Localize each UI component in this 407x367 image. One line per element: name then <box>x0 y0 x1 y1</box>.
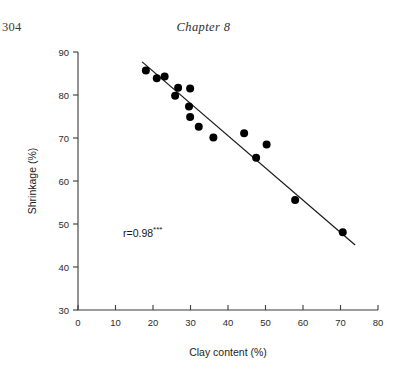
regression-line <box>142 62 355 245</box>
data-point-3 <box>174 84 182 92</box>
x-tick-label-80: 80 <box>373 317 384 328</box>
data-point-5 <box>186 85 194 93</box>
y-tick-label-80: 80 <box>58 90 69 101</box>
y-tick-label-50: 50 <box>58 219 69 230</box>
data-point-9 <box>209 134 217 142</box>
data-point-7 <box>186 113 194 121</box>
data-point-12 <box>263 140 271 148</box>
axes-group: 0102030405060708030405060708090 <box>58 47 383 329</box>
correlation-annotation: r=0.98*** <box>123 225 162 239</box>
data-point-4 <box>171 92 179 100</box>
plot-canvas: 0102030405060708030405060708090 r=0.98**… <box>0 0 407 367</box>
data-point-8 <box>195 123 203 131</box>
y-tick-label-30: 30 <box>58 305 69 316</box>
axis-lines <box>78 52 378 310</box>
x-tick-label-40: 40 <box>223 317 234 328</box>
data-point-6 <box>185 103 193 111</box>
scatter-plot-figure: 0102030405060708030405060708090 r=0.98**… <box>0 0 407 367</box>
y-tick-label-60: 60 <box>58 176 69 187</box>
x-tick-label-60: 60 <box>298 317 309 328</box>
y-tick-label-90: 90 <box>58 47 69 58</box>
x-tick-label-10: 10 <box>110 317 121 328</box>
data-point-11 <box>252 154 260 162</box>
data-point-14 <box>339 228 347 236</box>
data-point-13 <box>291 196 299 204</box>
data-point-1 <box>153 74 161 82</box>
x-tick-label-50: 50 <box>260 317 271 328</box>
y-tick-label-40: 40 <box>58 262 69 273</box>
regression-line-group <box>142 62 355 245</box>
x-tick-label-0: 0 <box>75 317 80 328</box>
y-tick-label-70: 70 <box>58 133 69 144</box>
data-point-2 <box>161 73 169 81</box>
y-axis-title: Shrinkage (%) <box>26 148 38 215</box>
x-tick-label-30: 30 <box>185 317 196 328</box>
book-page: 304 Chapter 8 01020304050607080304050607… <box>0 0 407 367</box>
x-axis-title: Clay content (%) <box>189 346 267 358</box>
data-point-0 <box>142 66 150 74</box>
annotations-group: r=0.98*** <box>123 225 162 239</box>
x-tick-label-20: 20 <box>148 317 159 328</box>
x-tick-label-70: 70 <box>335 317 346 328</box>
data-point-10 <box>240 129 248 137</box>
